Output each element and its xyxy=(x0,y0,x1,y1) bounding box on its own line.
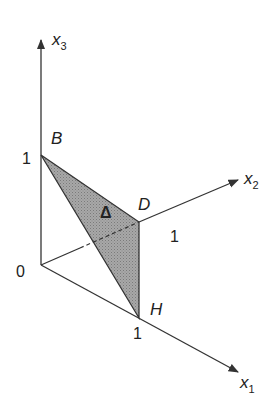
x2-axis-front xyxy=(41,248,80,265)
x1-axis-label: x1 xyxy=(239,373,255,395)
point-d-label: D xyxy=(138,195,150,214)
h-tick-label: 1 xyxy=(133,325,142,342)
point-h-label: H xyxy=(150,300,163,319)
d-tick-label: 1 xyxy=(170,228,179,245)
simplex-triangle xyxy=(41,155,139,318)
x2-axis-label: x2 xyxy=(243,169,259,191)
simplex-diagram: x3 x2 x1 0 1 B D 1 H 1 Δ xyxy=(0,0,280,415)
region-delta-label: Δ xyxy=(100,204,112,221)
x3-axis-label: x3 xyxy=(51,30,67,52)
b-tick-label: 1 xyxy=(22,150,31,167)
x2-axis xyxy=(139,180,238,222)
point-b-label: B xyxy=(51,129,62,148)
origin-label: 0 xyxy=(16,263,25,280)
